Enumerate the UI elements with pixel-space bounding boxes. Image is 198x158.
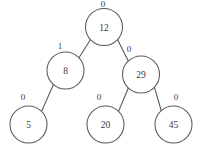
balance-label-8: 1 (58, 41, 63, 51)
balance-label-20: 0 (97, 92, 102, 102)
node-value-29: 29 (136, 70, 146, 80)
node-5: 5 0 (10, 92, 47, 143)
node-8: 8 1 (47, 41, 84, 89)
balance-label-12: 0 (101, 0, 106, 9)
binary-tree-diagram: 12 0 8 1 29 0 5 0 20 0 45 0 (0, 0, 198, 158)
node-29: 29 0 (123, 44, 160, 93)
node-value-20: 20 (101, 120, 111, 130)
node-value-45: 45 (169, 120, 179, 130)
edge-29-to-45 (155, 88, 162, 112)
node-20: 20 0 (87, 92, 124, 143)
edge-8-to-5 (42, 85, 54, 112)
balance-label-29: 0 (127, 44, 132, 54)
node-value-5: 5 (26, 120, 31, 130)
node-value-8: 8 (63, 66, 68, 76)
balance-label-5: 0 (21, 92, 26, 102)
node-value-12: 12 (99, 23, 109, 33)
node-12: 12 0 (86, 0, 123, 46)
node-45: 45 0 (155, 92, 192, 143)
edge-29-to-20 (119, 88, 129, 112)
balance-label-45: 0 (174, 92, 179, 102)
edge-root-to-left (79, 40, 91, 59)
tree-canvas: 12 0 8 1 29 0 5 0 20 0 45 0 (0, 0, 198, 158)
